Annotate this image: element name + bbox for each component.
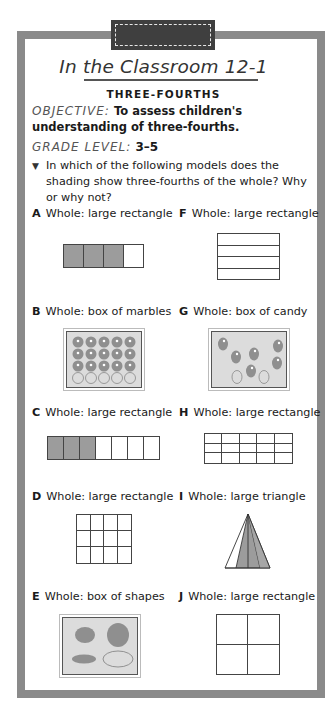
tab-stitching [115, 24, 211, 46]
item-text: Whole: large rectangle [46, 490, 173, 503]
model-g [208, 328, 290, 391]
triangle-bullet-icon: ▼ [32, 161, 39, 171]
item-letter: D [32, 490, 41, 503]
item-text: Whole: large rectangle [192, 207, 319, 220]
item-text: Whole: large triangle [188, 490, 305, 503]
item-text: Whole: large rectangle [188, 590, 315, 603]
question-text: In which of the following models does th… [32, 158, 312, 206]
item-text: Whole: large rectangle [193, 406, 320, 419]
item-text: Whole: large rectangle [45, 406, 172, 419]
model-j [216, 614, 280, 675]
model-f [217, 233, 280, 280]
item-i-label: IWhole: large triangle [179, 490, 306, 503]
grade-level-label: GRADE LEVEL: [32, 140, 131, 154]
item-a-label: AWhole: large rectangle [32, 207, 173, 220]
item-e-label: EWhole: box of shapes [32, 590, 165, 603]
model-c [47, 436, 160, 460]
item-letter: G [179, 305, 188, 318]
item-f-label: FWhole: large rectangle [179, 207, 319, 220]
model-a [63, 244, 144, 268]
item-letter: I [179, 490, 183, 503]
model-h [204, 433, 293, 464]
item-text: Whole: box of shapes [45, 590, 165, 603]
question: ▼ In which of the following models does … [32, 158, 312, 206]
item-letter: A [32, 207, 41, 220]
item-j-label: JWhole: large rectangle [179, 590, 315, 603]
model-i [224, 512, 272, 570]
item-text: Whole: box of candy [193, 305, 307, 318]
header-tab [111, 20, 215, 50]
item-d-label: DWhole: large rectangle [32, 490, 173, 503]
item-letter: C [32, 406, 40, 419]
item-letter: J [179, 590, 183, 603]
item-letter: E [32, 590, 40, 603]
item-g-label: GWhole: box of candy [179, 305, 307, 318]
model-d [76, 514, 132, 564]
item-h-label: HWhole: large rectangle [179, 406, 320, 419]
grade-level-value: 3–5 [135, 140, 158, 154]
page-subtitle: THREE-FOURTHS [0, 88, 327, 100]
item-letter: H [179, 406, 188, 419]
grade-level: GRADE LEVEL: 3–5 [32, 140, 158, 154]
model-e [59, 614, 141, 678]
objective: OBJECTIVE: To assess children's understa… [32, 103, 302, 135]
item-letter: B [32, 305, 41, 318]
item-text: Whole: box of marbles [46, 305, 172, 318]
objective-label: OBJECTIVE: [32, 104, 110, 118]
item-b-label: BWhole: box of marbles [32, 305, 171, 318]
model-b [63, 328, 145, 391]
item-text: Whole: large rectangle [46, 207, 173, 220]
item-c-label: CWhole: large rectangle [32, 406, 172, 419]
item-letter: F [179, 207, 187, 220]
title-underline [84, 79, 258, 81]
page-title: In the Classroom 12-1 [0, 56, 327, 77]
